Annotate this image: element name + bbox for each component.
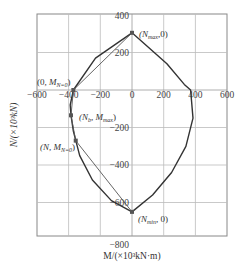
annotation-nmax: (Nmax,0) [139, 29, 168, 40]
annotation-nmin: (Nmin, 0) [138, 214, 168, 225]
y-tick-label: −800 [109, 240, 129, 250]
annotated-point-marker [130, 31, 134, 35]
x-tick-label: −600 [27, 90, 47, 100]
x-tick-label: 0 [130, 90, 135, 100]
x-axis-label: M/(×10³kN·m) [103, 251, 160, 262]
x-tick-label: 200 [157, 90, 172, 100]
y-tick-label: 200 [115, 48, 130, 58]
annotated-point-marker [130, 210, 134, 214]
y-tick-label: 400 [115, 11, 130, 21]
y-tick-label: −200 [109, 123, 129, 133]
tick-labels: −600−400−2000200400600400200−200−400−600… [27, 11, 234, 250]
x-tick-label: −400 [59, 90, 79, 100]
annotation-m-n0: (0, MN=0) [37, 77, 71, 88]
y-tick-label: −600 [109, 198, 129, 208]
y-axis-label: N/(×10³kN) [9, 103, 20, 149]
annotated-point-marker [69, 113, 73, 117]
x-tick-label: 600 [220, 90, 235, 100]
y-tick-label: −400 [109, 160, 129, 170]
gridlines [37, 14, 227, 236]
annotation-nb-mmax: (Nb, Mmax) [79, 112, 116, 123]
x-tick-label: −200 [90, 90, 110, 100]
annotation-n-mn0: (N, MN=0) [40, 142, 75, 153]
annotated-point-marker [71, 88, 75, 92]
interaction-diagram: −600−400−2000200400600400200−200−400−600… [0, 0, 246, 263]
